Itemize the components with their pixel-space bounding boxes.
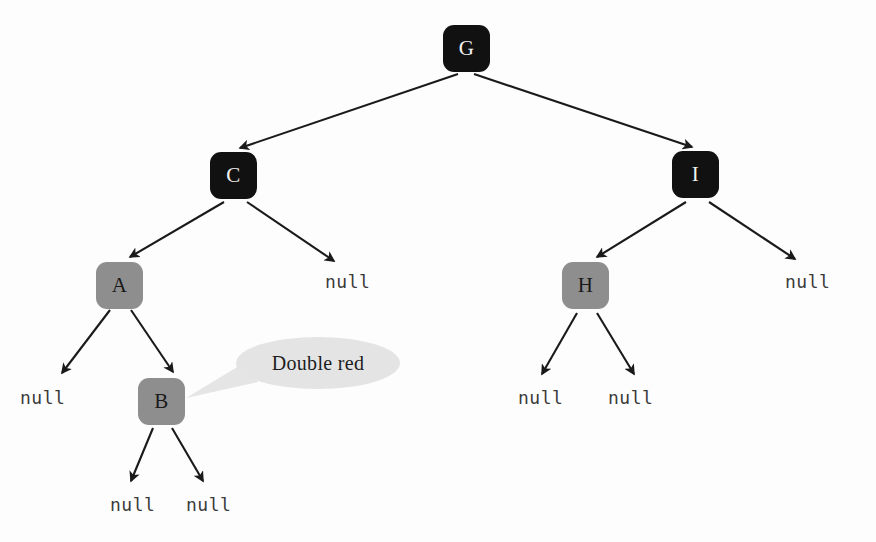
tree-null-b-left: null <box>110 494 155 515</box>
double-red-callout: Double red <box>236 337 400 389</box>
tree-node-g[interactable]: G <box>443 25 490 72</box>
tree-null-c-right: null <box>325 271 370 292</box>
tree-null-h-left: null <box>518 387 563 408</box>
tree-node-label: G <box>459 38 475 59</box>
tree-edge-G-to-C <box>240 74 458 148</box>
tree-null-b-right: null <box>186 494 231 515</box>
tree-node-label: I <box>692 164 700 185</box>
tree-edge-C-to-null-c-right <box>247 202 334 261</box>
tree-node-h[interactable]: H <box>562 262 609 309</box>
tree-node-label: A <box>112 275 128 296</box>
tree-edge-B-to-null-b-left <box>131 428 153 481</box>
tree-null-a-left: null <box>20 387 65 408</box>
tree-node-c[interactable]: C <box>210 152 257 199</box>
tree-edge-A-to-null-a-left <box>62 310 110 373</box>
tree-node-label: H <box>578 275 594 296</box>
tree-edge-G-to-I <box>474 74 692 147</box>
tree-node-label: C <box>226 165 241 186</box>
tree-diagram-canvas: GCIAHB nullnullnullnullnullnullnull Doub… <box>0 0 876 542</box>
tree-null-i-right: null <box>785 271 830 292</box>
double-red-callout-label: Double red <box>272 352 364 375</box>
tree-edge-C-to-A <box>130 202 224 257</box>
tree-node-a[interactable]: A <box>96 262 143 309</box>
tree-null-h-right: null <box>608 387 653 408</box>
tree-edge-B-to-null-b-right <box>172 428 203 481</box>
tree-edge-H-to-null-h-right <box>597 313 634 374</box>
tree-edge-H-to-null-h-left <box>542 313 577 374</box>
tree-edge-I-to-null-i-right <box>709 202 795 259</box>
tree-node-label: B <box>154 391 169 412</box>
tree-edge-A-to-B <box>131 310 173 372</box>
tree-node-i[interactable]: I <box>672 151 719 198</box>
tree-edge-I-to-H <box>597 202 686 257</box>
tree-node-b[interactable]: B <box>138 378 185 425</box>
